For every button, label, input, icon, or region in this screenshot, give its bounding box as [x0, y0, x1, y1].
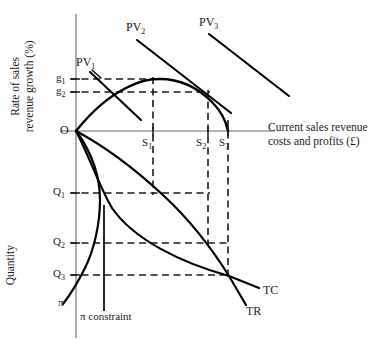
tick-label-pi: π — [58, 297, 64, 308]
tick-label-q2: Q2 — [53, 236, 65, 250]
tick-label-q3-sub: 3 — [61, 273, 65, 282]
curve-label-pv1-base: PV — [76, 55, 91, 69]
tick-label-q2-base: Q — [53, 235, 61, 247]
tick-label-q3-base: Q — [53, 267, 61, 279]
tick-label-s1: S1 — [142, 137, 152, 151]
tick-label-q2-sub: 2 — [61, 241, 65, 250]
curve-label-pv2: PV2 — [126, 21, 145, 36]
curve-label-pv1-sub: 1 — [91, 62, 95, 71]
y-axis-title-quantity-text: Quantity — [4, 245, 16, 285]
tick-label-s1-sub: 1 — [148, 142, 152, 151]
tick-label-pi-base: π — [58, 296, 64, 308]
annotation-pi-constraint-text: π constraint — [80, 310, 132, 322]
tick-label-q3: Q3 — [53, 268, 65, 282]
tick-label-g2: g2 — [56, 85, 66, 99]
figure-canvas: Rate of sales revenue growth (%) Quantit… — [0, 0, 390, 349]
y-axis-title-quantity: Quantity — [3, 225, 17, 305]
x-axis-title-line1: Current sales revenue — [268, 121, 368, 133]
tick-label-s3-sub: 3 — [225, 142, 229, 151]
tick-label-s2: S2 — [196, 137, 206, 151]
tick-label-q1-base: Q — [53, 185, 61, 197]
tick-label-g2-sub: 2 — [62, 90, 66, 99]
curve-label-tc-base: TC — [263, 283, 278, 297]
curve-label-pv1: PV1 — [76, 56, 95, 71]
origin-label: O — [60, 124, 69, 136]
pv-lines-group — [90, 34, 289, 120]
curve-label-tr: TR — [246, 305, 261, 317]
y-axis-title-line1: Rate of sales — [9, 57, 21, 116]
growth-curve — [76, 79, 228, 131]
y-axis-title-line2: revenue growth (%) — [22, 28, 36, 144]
pi-curve — [63, 132, 100, 304]
pv3-line — [209, 34, 289, 96]
curve-label-pv2-sub: 2 — [141, 27, 145, 36]
tick-label-s3: S3 — [219, 137, 229, 151]
curve-label-pv3-base: PV — [199, 15, 214, 29]
curve-label-pv3-sub: 3 — [214, 22, 218, 31]
curve-label-tr-base: TR — [246, 304, 261, 318]
curve-label-tc: TC — [263, 284, 278, 296]
origin-label-text: O — [60, 123, 69, 137]
x-axis-title-line2: costs and profits (£) — [268, 134, 368, 148]
x-axis-title: Current sales revenue costs and profits … — [268, 120, 368, 149]
curve-label-pv3: PV3 — [199, 16, 218, 31]
pv2-line — [137, 40, 231, 113]
curve-label-pv2-base: PV — [126, 20, 141, 34]
tick-label-s2-sub: 2 — [202, 142, 206, 151]
tick-label-q1-sub: 1 — [61, 191, 65, 200]
tick-label-q1: Q1 — [53, 186, 65, 200]
annotation-pi-constraint: π constraint — [80, 311, 132, 322]
y-axis-title: Rate of sales revenue growth (%) — [8, 28, 37, 144]
